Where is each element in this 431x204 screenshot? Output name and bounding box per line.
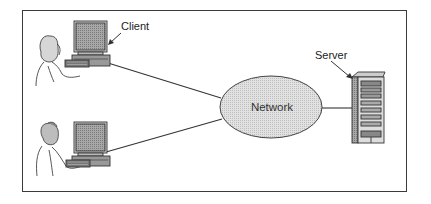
computer-icon — [66, 122, 110, 167]
client-workstation-2 — [37, 122, 110, 176]
server-label: Server — [315, 49, 347, 61]
client-label-arrow — [108, 33, 121, 45]
diagram-canvas — [0, 0, 431, 204]
server-label-arrow — [331, 61, 353, 79]
client-workstation-1 — [36, 21, 110, 86]
server-tower-icon — [352, 72, 385, 143]
network-label: Network — [251, 101, 293, 113]
computer-icon — [65, 21, 110, 67]
edge-client1-network — [108, 63, 221, 98]
edge-client2-network — [106, 119, 222, 152]
client-label: Client — [121, 20, 149, 32]
